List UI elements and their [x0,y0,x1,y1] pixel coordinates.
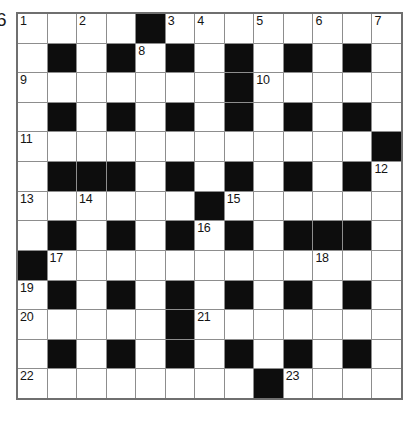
grid-letter-cell[interactable] [372,281,401,310]
grid-letter-cell[interactable] [48,369,77,398]
grid-letter-cell[interactable] [284,14,313,43]
grid-letter-cell[interactable] [313,369,342,398]
grid-letter-cell[interactable] [136,192,165,221]
grid-letter-cell[interactable] [195,73,224,102]
grid-letter-cell[interactable] [48,132,77,161]
grid-letter-cell[interactable] [372,310,401,339]
grid-letter-cell[interactable]: 17 [48,251,77,280]
grid-letter-cell[interactable] [107,73,136,102]
grid-letter-cell[interactable] [77,103,106,132]
grid-letter-cell[interactable]: 4 [195,14,224,43]
grid-letter-cell[interactable]: 2 [77,14,106,43]
grid-letter-cell[interactable] [166,132,195,161]
grid-letter-cell[interactable] [166,73,195,102]
grid-letter-cell[interactable] [136,162,165,191]
grid-letter-cell[interactable] [195,103,224,132]
grid-letter-cell[interactable] [372,44,401,73]
grid-letter-cell[interactable] [195,281,224,310]
grid-letter-cell[interactable] [372,369,401,398]
grid-letter-cell[interactable]: 12 [372,162,401,191]
grid-letter-cell[interactable] [343,192,372,221]
grid-letter-cell[interactable]: 23 [284,369,313,398]
grid-letter-cell[interactable] [136,340,165,369]
grid-letter-cell[interactable]: 8 [136,44,165,73]
grid-letter-cell[interactable] [18,162,47,191]
grid-letter-cell[interactable] [313,281,342,310]
grid-letter-cell[interactable]: 15 [225,192,254,221]
grid-letter-cell[interactable] [343,73,372,102]
grid-letter-cell[interactable] [48,310,77,339]
grid-letter-cell[interactable] [343,251,372,280]
grid-letter-cell[interactable] [107,14,136,43]
grid-letter-cell[interactable] [372,340,401,369]
grid-letter-cell[interactable] [195,162,224,191]
grid-letter-cell[interactable] [254,221,283,250]
grid-letter-cell[interactable] [313,310,342,339]
grid-letter-cell[interactable] [254,340,283,369]
grid-letter-cell[interactable] [372,73,401,102]
grid-letter-cell[interactable] [284,251,313,280]
grid-letter-cell[interactable] [166,369,195,398]
grid-letter-cell[interactable] [77,44,106,73]
grid-letter-cell[interactable] [372,192,401,221]
grid-letter-cell[interactable]: 10 [254,73,283,102]
grid-letter-cell[interactable] [284,73,313,102]
grid-letter-cell[interactable] [225,132,254,161]
grid-letter-cell[interactable] [225,251,254,280]
grid-letter-cell[interactable] [77,221,106,250]
grid-letter-cell[interactable] [225,369,254,398]
grid-letter-cell[interactable] [166,192,195,221]
grid-letter-cell[interactable] [254,251,283,280]
grid-letter-cell[interactable] [225,14,254,43]
grid-letter-cell[interactable]: 1 [18,14,47,43]
grid-letter-cell[interactable]: 14 [77,192,106,221]
grid-letter-cell[interactable]: 5 [254,14,283,43]
grid-letter-cell[interactable] [313,103,342,132]
crossword-grid[interactable]: 1234567891011121314151617181920212223 [18,14,401,398]
grid-letter-cell[interactable] [313,44,342,73]
grid-letter-cell[interactable] [195,340,224,369]
grid-letter-cell[interactable] [372,103,401,132]
grid-letter-cell[interactable]: 20 [18,310,47,339]
grid-letter-cell[interactable] [254,132,283,161]
grid-letter-cell[interactable] [195,44,224,73]
grid-letter-cell[interactable] [77,310,106,339]
grid-letter-cell[interactable] [313,340,342,369]
grid-letter-cell[interactable] [136,369,165,398]
grid-letter-cell[interactable] [343,14,372,43]
grid-letter-cell[interactable] [372,251,401,280]
grid-letter-cell[interactable] [254,44,283,73]
grid-letter-cell[interactable] [18,103,47,132]
grid-letter-cell[interactable]: 21 [195,310,224,339]
grid-letter-cell[interactable] [48,14,77,43]
grid-letter-cell[interactable] [195,369,224,398]
grid-letter-cell[interactable] [313,132,342,161]
grid-letter-cell[interactable] [107,132,136,161]
grid-letter-cell[interactable] [313,73,342,102]
grid-letter-cell[interactable] [18,44,47,73]
grid-letter-cell[interactable] [77,73,106,102]
grid-letter-cell[interactable] [136,221,165,250]
grid-letter-cell[interactable] [284,192,313,221]
grid-letter-cell[interactable] [343,132,372,161]
grid-letter-cell[interactable] [195,251,224,280]
grid-letter-cell[interactable] [107,192,136,221]
grid-letter-cell[interactable] [254,192,283,221]
grid-letter-cell[interactable] [18,340,47,369]
grid-letter-cell[interactable] [225,310,254,339]
grid-letter-cell[interactable]: 22 [18,369,47,398]
grid-letter-cell[interactable]: 18 [313,251,342,280]
grid-letter-cell[interactable]: 6 [313,14,342,43]
grid-letter-cell[interactable]: 11 [18,132,47,161]
grid-letter-cell[interactable] [136,103,165,132]
grid-letter-cell[interactable]: 16 [195,221,224,250]
grid-letter-cell[interactable] [136,281,165,310]
grid-letter-cell[interactable] [136,73,165,102]
grid-letter-cell[interactable] [77,281,106,310]
grid-letter-cell[interactable] [107,369,136,398]
grid-letter-cell[interactable] [48,73,77,102]
grid-letter-cell[interactable] [136,251,165,280]
grid-letter-cell[interactable] [18,221,47,250]
grid-letter-cell[interactable] [77,251,106,280]
grid-letter-cell[interactable] [254,162,283,191]
